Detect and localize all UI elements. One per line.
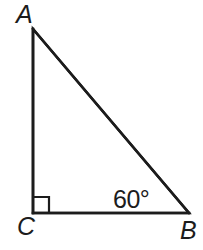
side-ab-hypotenuse xyxy=(33,29,189,213)
geometry-figure: A C B 60° xyxy=(0,0,203,250)
vertex-label-c: C xyxy=(17,214,35,239)
vertex-label-b: B xyxy=(180,218,197,243)
right-angle-marker-icon xyxy=(33,197,49,213)
vertex-label-a: A xyxy=(16,2,33,27)
angle-measure-label-b: 60° xyxy=(113,187,149,212)
